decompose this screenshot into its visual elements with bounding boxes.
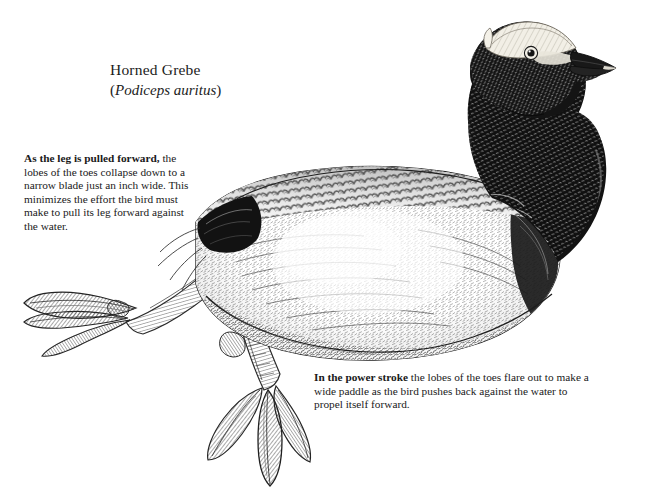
power-hind-lobe (220, 332, 246, 357)
annotation-power-lead: In the power stroke (314, 371, 408, 383)
annotation-power-stroke: In the power stroke the lobes of the toe… (314, 371, 592, 412)
annotation-recovery-lead: As the leg is pulled forward, (24, 152, 160, 164)
annotation-recovery-stroke: As the leg is pulled forward, the lobes … (24, 152, 198, 234)
scientific-name-text: Podiceps auritus (115, 82, 216, 98)
bill (570, 52, 617, 76)
scientific-name: (Podiceps auritus) (110, 80, 330, 100)
species-title-block: Horned Grebe (Podiceps auritus) (110, 60, 330, 100)
rump-dark-patch (198, 196, 262, 253)
illustration-page: Horned Grebe (Podiceps auritus) As the l… (0, 0, 647, 504)
scientific-name-close-paren: ) (216, 82, 221, 98)
page-title: Horned Grebe (110, 60, 330, 80)
eye (524, 46, 537, 59)
